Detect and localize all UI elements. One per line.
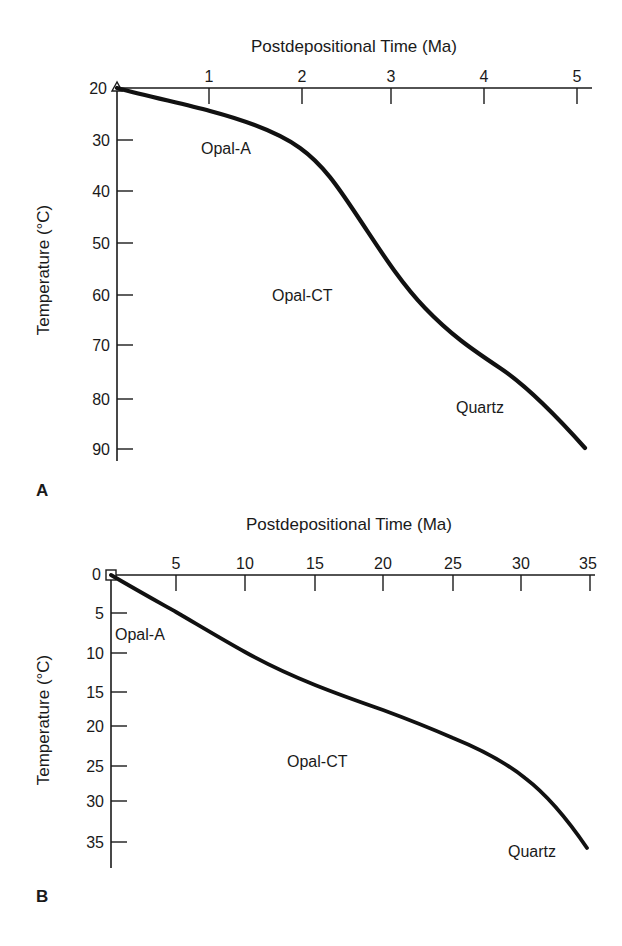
temperature-curve (117, 88, 585, 448)
label-quartz: Quartz (456, 399, 504, 416)
y-tick-label: 0 (92, 566, 101, 583)
x-tick-label: 10 (236, 555, 254, 572)
x-axis-title: Postdepositional Time (Ma) (251, 37, 457, 56)
x-ticks (176, 575, 590, 591)
label-opal-a: Opal-A (201, 140, 251, 157)
panel-letter-b: B (36, 887, 48, 906)
y-tick-label: 50 (92, 235, 110, 252)
y-tick-label: 35 (86, 834, 104, 851)
panel-letter-a: A (36, 481, 48, 500)
y-tick-label: 5 (95, 605, 104, 622)
x-tick-label: 25 (444, 555, 462, 572)
label-opal-ct: Opal-CT (272, 287, 333, 304)
x-tick-label: 5 (172, 555, 181, 572)
x-tick-label: 2 (298, 68, 307, 85)
x-tick-label: 3 (387, 68, 396, 85)
y-tick-label: 40 (92, 183, 110, 200)
label-quartz: Quartz (508, 843, 556, 860)
panel-a: Postdepositional Time (Ma) 1 2 3 4 5 (34, 37, 592, 500)
y-tick-label: 10 (86, 645, 104, 662)
x-tick-labels: 1 2 3 4 5 (205, 68, 582, 85)
y-tick-label: 20 (89, 80, 107, 97)
x-tick-label: 5 (573, 68, 582, 85)
y-axis-title: Temperature (°C) (34, 655, 53, 786)
y-axis-title: Temperature (°C) (34, 205, 53, 336)
x-ticks (209, 88, 577, 104)
y-ticks (111, 613, 127, 842)
y-tick-label: 30 (86, 793, 104, 810)
label-opal-ct: Opal-CT (287, 753, 348, 770)
x-tick-label: 15 (306, 555, 324, 572)
y-tick-label: 30 (92, 132, 110, 149)
x-tick-label: 4 (480, 68, 489, 85)
label-opal-a: Opal-A (115, 626, 165, 643)
y-tick-label: 15 (86, 684, 104, 701)
y-tick-label: 80 (92, 391, 110, 408)
y-ticks (117, 140, 133, 449)
temperature-curve (111, 575, 587, 848)
y-tick-label: 90 (92, 441, 110, 458)
panel-b: Postdepositional Time (Ma) 5 10 15 20 25… (34, 515, 597, 906)
x-tick-label: 1 (205, 68, 214, 85)
y-tick-label: 25 (86, 758, 104, 775)
y-tick-labels: 20 30 40 50 60 70 80 90 (89, 80, 110, 458)
y-tick-labels: 0 5 10 15 20 25 30 35 (86, 566, 104, 851)
x-axis-title: Postdepositional Time (Ma) (246, 515, 452, 534)
x-tick-labels: 5 10 15 20 25 30 35 (172, 555, 597, 572)
x-tick-label: 20 (374, 555, 392, 572)
x-tick-label: 35 (579, 555, 597, 572)
x-tick-label: 30 (512, 555, 530, 572)
y-tick-label: 20 (86, 718, 104, 735)
y-tick-label: 60 (92, 287, 110, 304)
figure: Postdepositional Time (Ma) 1 2 3 4 5 (0, 0, 622, 946)
y-tick-label: 70 (92, 337, 110, 354)
